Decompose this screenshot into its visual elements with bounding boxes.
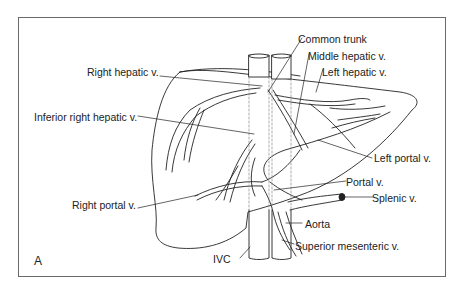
panel-label: A (34, 254, 42, 268)
label-portal: Portal v. (346, 176, 384, 188)
label-inferior-right-hepatic: Inferior right hepatic v. (34, 111, 137, 123)
label-ivc: IVC (213, 253, 231, 265)
label-splenic: Splenic v. (372, 192, 417, 204)
label-middle-hepatic: Middle hepatic v. (308, 50, 386, 62)
label-left-portal: Left portal v. (374, 152, 431, 164)
label-right-hepatic: Right hepatic v. (87, 66, 159, 78)
label-aorta: Aorta (305, 218, 330, 230)
label-superior-mesenteric: Superior mesenteric v. (295, 240, 399, 252)
label-right-portal: Right portal v. (72, 199, 136, 211)
label-left-hepatic: Left hepatic v. (322, 66, 387, 78)
label-common-trunk: Common trunk (298, 33, 367, 45)
